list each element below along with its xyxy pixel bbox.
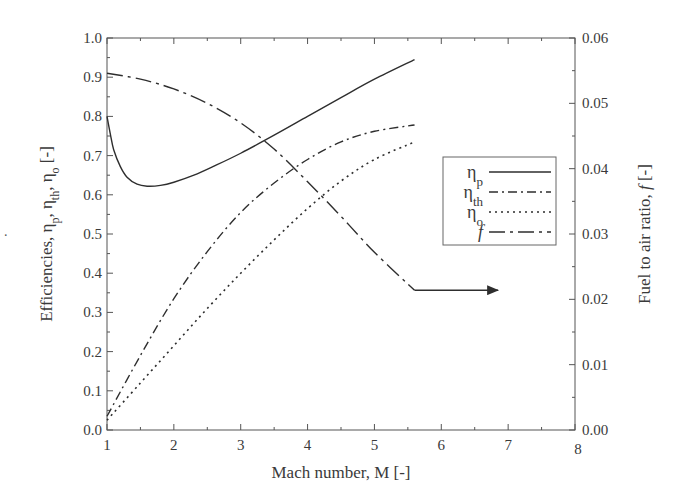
curve-f — [107, 73, 415, 290]
x-tick-label: 8 — [574, 441, 582, 457]
y-right-tick-label: 0.03 — [582, 226, 608, 242]
y-left-tick-label: 0.3 — [83, 304, 102, 320]
y-right-tick-labels: 0.000.010.020.030.040.050.06 — [582, 30, 609, 438]
y-right-tick-label: 0.04 — [582, 161, 609, 177]
stray-dot: . — [4, 224, 8, 239]
y-left-tick-label: 0.7 — [83, 148, 102, 164]
y-right-tick-label: 0.01 — [582, 357, 608, 373]
chart-svg: 12345678 0.00.10.20.30.40.50.60.70.80.91… — [0, 0, 681, 499]
y-left-tick-label: 0.5 — [83, 226, 102, 242]
curve-ηth — [107, 125, 415, 416]
x-tick-label: 2 — [170, 437, 178, 453]
x-tick-label: 7 — [504, 437, 512, 453]
y-left-tick-label: 1.0 — [83, 30, 102, 46]
legend: ηpηthηof — [443, 157, 556, 245]
x-tick-label: 3 — [237, 437, 245, 453]
y-left-tick-label: 0.4 — [83, 265, 102, 281]
y-right-tick-label: 0.06 — [582, 30, 609, 46]
y-right-tick-label: 0.02 — [582, 291, 608, 307]
y-left-tick-label: 0.9 — [83, 69, 102, 85]
y-left-tick-label: 0.8 — [83, 108, 102, 124]
y-left-tick-labels: 0.00.10.20.30.40.50.60.70.80.91.0 — [83, 30, 102, 438]
y-right-axis-title: Fuel to air ratio, f [-] — [635, 164, 654, 304]
x-tick-labels: 12345678 — [103, 437, 582, 457]
y-left-tick-label: 0.6 — [83, 187, 102, 203]
y-left-axis-title: Efficiencies, ηp, ηth, ηo [-] — [37, 146, 62, 322]
data-curves — [107, 60, 415, 421]
x-tick-label: 6 — [438, 437, 446, 453]
x-tick-label: 1 — [103, 437, 111, 453]
y-right-tick-label: 0.00 — [582, 422, 608, 438]
x-tick-label: 4 — [304, 437, 312, 453]
x-axis-title: Mach number, M [-] — [271, 463, 410, 482]
y-left-tick-label: 0.2 — [83, 344, 102, 360]
curve-ηo — [107, 142, 415, 420]
y-left-tick-label: 0.1 — [83, 383, 102, 399]
y-left-tick-label: 0.0 — [83, 422, 102, 438]
y-right-tick-label: 0.05 — [582, 95, 608, 111]
x-tick-label: 5 — [371, 437, 379, 453]
curve-ηp — [107, 60, 415, 187]
